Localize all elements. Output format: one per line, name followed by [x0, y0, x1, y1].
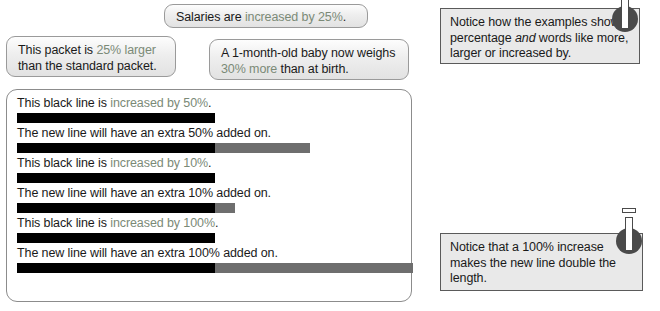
line-row-label: The new line will have an extra 100% add…	[17, 246, 413, 260]
line-bar	[17, 263, 413, 273]
callout-packet-post: than the standard packet.	[18, 59, 157, 73]
line-bar-original-segment	[17, 263, 215, 273]
line-bar-increase-segment	[215, 203, 235, 213]
line-row-label-pre: The new line will have an extra 100% add…	[17, 246, 278, 260]
callout-salaries-pre: Salaries are	[176, 10, 245, 24]
line-bar	[17, 233, 218, 243]
line-row-label: The new line will have an extra 50% adde…	[17, 126, 310, 140]
callout-packet: This packet is 25% larger than the stand…	[6, 36, 176, 77]
pin-stem	[625, 217, 633, 251]
info-pin-icon	[612, 208, 646, 254]
line-row: The new line will have an extra 100% add…	[17, 246, 413, 273]
line-row-label-post: .	[215, 216, 218, 230]
callout-salaries: Salaries are increased by 25%.	[164, 4, 368, 28]
line-row-label-post: .	[208, 156, 211, 170]
line-row-label-highlight: increased by 50%	[110, 96, 208, 110]
pin-cap	[622, 208, 636, 213]
line-row-label-pre: The new line will have an extra 50% adde…	[17, 126, 271, 140]
lines-panel: This black line is increased by 50%.The …	[6, 89, 412, 302]
line-bar-original-segment	[17, 233, 215, 243]
line-row-label-pre: This black line is	[17, 96, 110, 110]
line-row: This black line is increased by 10%.	[17, 156, 215, 183]
line-row-label-post: .	[208, 96, 211, 110]
callout-baby-pre: A 1-month-old baby now weighs	[221, 46, 395, 60]
line-row-label-pre: This black line is	[17, 216, 110, 230]
callout-baby-highlight: 30% more	[221, 62, 277, 76]
line-bar-original-segment	[17, 113, 215, 123]
line-bar-increase-segment	[215, 263, 413, 273]
line-bar	[17, 113, 215, 123]
line-row-label: This black line is increased by 10%.	[17, 156, 215, 170]
line-row: The new line will have an extra 10% adde…	[17, 186, 271, 213]
line-row-label: The new line will have an extra 10% adde…	[17, 186, 271, 200]
line-bar	[17, 143, 310, 153]
line-row: The new line will have an extra 50% adde…	[17, 126, 310, 153]
pin-stem	[621, 0, 629, 29]
line-bar-original-segment	[17, 143, 215, 153]
callout-baby-post: than at birth.	[277, 62, 348, 76]
callout-packet-highlight: 25% larger	[96, 43, 155, 57]
line-row: This black line is increased by 100%.	[17, 216, 218, 243]
line-bar-original-segment	[17, 173, 215, 183]
line-bar	[17, 173, 215, 183]
line-bar-increase-segment	[215, 143, 310, 153]
notice-top-emphasis: and	[515, 31, 536, 45]
callout-salaries-highlight: increased by 25%	[245, 10, 343, 24]
line-row-label-pre: The new line will have an extra 10% adde…	[17, 186, 271, 200]
line-row-label: This black line is increased by 100%.	[17, 216, 218, 230]
line-row-label: This black line is increased by 50%.	[17, 96, 215, 110]
info-pin-icon	[608, 0, 642, 32]
line-bar	[17, 203, 271, 213]
line-row-label-highlight: increased by 10%	[110, 156, 208, 170]
line-bar-original-segment	[17, 203, 215, 213]
line-row-label-highlight: increased by 100%	[110, 216, 215, 230]
callout-packet-pre: This packet is	[18, 43, 96, 57]
callout-baby: A 1-month-old baby now weighs 30% more t…	[209, 39, 409, 80]
callout-salaries-post: .	[343, 10, 346, 24]
line-row-label-pre: This black line is	[17, 156, 110, 170]
line-row: This black line is increased by 50%.	[17, 96, 215, 123]
notice-bottom-part1: Notice that a 100% increase makes the ne…	[450, 240, 616, 285]
